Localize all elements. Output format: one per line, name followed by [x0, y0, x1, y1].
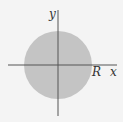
- y-axis-label: y: [48, 7, 56, 21]
- x-axis-label: x: [110, 65, 117, 79]
- radius-label: R: [91, 65, 101, 79]
- disk-diagram: y R x: [0, 0, 123, 122]
